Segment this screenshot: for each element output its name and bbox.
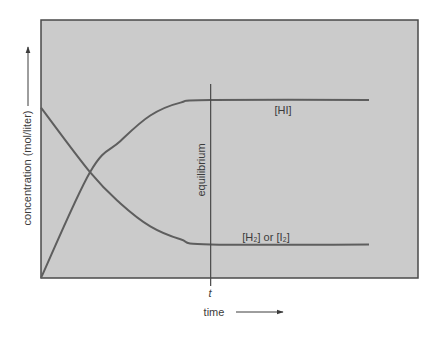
series-label-hi: [HI] [274,104,291,116]
y-axis-label: concentration (mol/liter) [21,111,33,226]
equilibrium-concentration-chart: equilibrium [HI] [H₂] or [I₂] t time con… [0,0,440,338]
series-label-h2-or-i2: [H₂] or [I₂] [242,231,290,243]
x-axis-label: time [204,306,225,318]
equilibrium-label: equilibrium [195,143,207,196]
x-tick-t: t [208,287,212,299]
plot-area [41,20,418,278]
